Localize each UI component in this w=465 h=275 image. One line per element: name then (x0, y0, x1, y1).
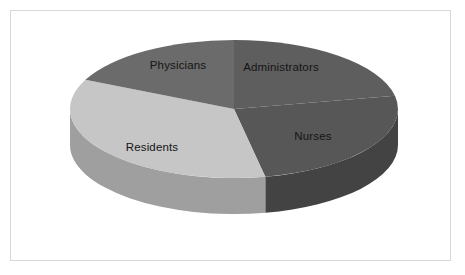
plot-area: Administrators Nurses Residents Physicia… (0, 0, 465, 275)
pie-top-faces (70, 40, 398, 178)
pie-chart-figure: Administrators Nurses Residents Physicia… (0, 0, 465, 275)
pie-svg (0, 0, 465, 275)
